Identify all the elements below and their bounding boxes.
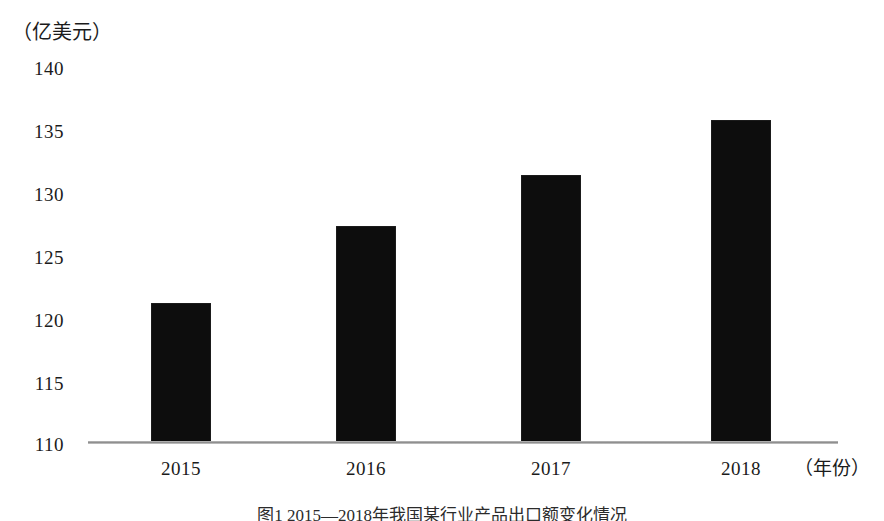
y-axis-unit-label: （亿美元） <box>12 20 112 44</box>
x-axis-tick-label: 2016 <box>306 458 426 480</box>
bar-2016 <box>336 226 396 443</box>
x-axis-unit-label: （年份） <box>794 457 870 481</box>
x-axis-tick-label: 2018 <box>681 458 801 480</box>
y-axis-tick-label: 130 <box>8 185 64 204</box>
y-axis-tick-label: 140 <box>8 59 64 78</box>
figure-caption: 图1 2015—2018年我国某行业产品出口额变化情况 <box>0 505 884 521</box>
y-axis-tick-label: 110 <box>8 435 64 454</box>
bar-2018 <box>711 120 771 443</box>
y-axis-tick-label: 120 <box>8 311 64 330</box>
plot-area <box>88 60 838 443</box>
chart-figure: （亿美元） 140 135 130 125 120 115 110 2015 2… <box>0 0 884 521</box>
bar-2015 <box>151 303 211 443</box>
bar-2017 <box>521 175 581 443</box>
x-axis-tick-label: 2017 <box>491 458 611 480</box>
y-axis-tick-label: 125 <box>8 248 64 267</box>
x-axis-tick-label: 2015 <box>121 458 241 480</box>
x-axis-line <box>88 441 838 444</box>
y-axis-tick-label: 135 <box>8 122 64 141</box>
y-axis-tick-label: 115 <box>8 374 64 393</box>
